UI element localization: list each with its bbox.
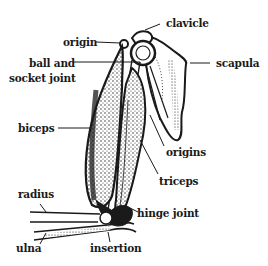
ball-socket-joint (120, 40, 155, 65)
label-triceps: triceps (159, 175, 198, 187)
label-clavicle: clavicle (166, 17, 209, 29)
label-origin: origin (63, 36, 97, 48)
label-ulna: ulna (16, 242, 41, 254)
label-radius: radius (18, 188, 54, 200)
label-hinge-joint: hinge joint (137, 207, 199, 219)
label-insertion: insertion (90, 242, 141, 254)
label-scapula: scapula (216, 57, 259, 69)
label-biceps: biceps (18, 122, 54, 134)
arm-anatomy-diagram: origin clavicle ball and socket joint sc… (0, 0, 268, 266)
label-ball-and: ball and (29, 57, 75, 69)
label-socket-joint: socket joint (9, 72, 76, 84)
label-origins: origins (166, 146, 206, 158)
